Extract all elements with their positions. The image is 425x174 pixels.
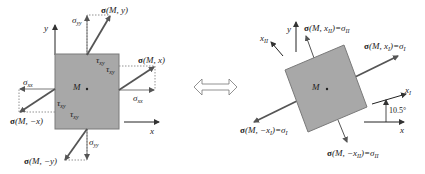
- sigma-m-neg-y-vector: [65, 129, 87, 160]
- x2-axis-arrow: [271, 42, 283, 56]
- sigma-m-neg-x-vector: [20, 89, 55, 112]
- x-axis-label: x: [149, 126, 154, 136]
- sigma-yy-bottom-label: σyy: [89, 137, 99, 148]
- sigma-m-xI-label: σ(M, xI)=σI: [364, 41, 406, 52]
- x1-axis-label: xI: [404, 85, 412, 96]
- sigma-m-neg-y-label: σ(M, −y): [24, 156, 57, 166]
- right-y-axis-label: y: [286, 24, 291, 34]
- stress-element-square: [55, 54, 119, 129]
- double-headed-arrow-icon: [194, 79, 237, 95]
- sigma-yy-top-label: σyy: [72, 15, 82, 26]
- sigma-m-neg-xI-label: σ(M, −xI)=σI: [240, 125, 288, 136]
- right-point-m-label: M: [311, 82, 320, 92]
- sigma-m-y-vector: [87, 16, 110, 55]
- right-x-axis-label: x: [399, 125, 404, 135]
- sigma-neg-xII-vector: [338, 120, 347, 142]
- x2-axis-label: xII: [259, 33, 269, 44]
- sigma-m-neg-xII-label: σ(M, −xII)=σII: [327, 148, 379, 159]
- point-m-dot: [86, 88, 88, 90]
- point-m-label: M: [72, 82, 81, 92]
- sigma-xI-vector: [355, 56, 398, 77]
- right-principal-element-group: y xII x xI 10.5° M σ(M, xII)=σII σ(M, xI…: [240, 22, 412, 159]
- sigma-xx-left-label: σxx: [23, 77, 33, 88]
- right-point-m-dot: [326, 88, 328, 90]
- sigma-m-x-vector: [119, 67, 154, 90]
- sigma-xx-right-label: σxx: [133, 93, 143, 104]
- sigma-neg-xI-vector: [254, 101, 297, 122]
- sigma-m-xII-label: σ(M, xII)=σII: [304, 23, 350, 34]
- stress-transformation-diagram: y x M σ(M, y) σyy σ(M, x) σxx σxx σ(M, −: [0, 0, 425, 174]
- angle-label: 10.5°: [389, 106, 406, 115]
- x1-axis-arrow: [372, 94, 406, 104]
- left-stress-element-group: y x M σ(M, y) σyy σ(M, x) σxx σxx σ(M, −: [10, 5, 165, 166]
- sigma-m-y-label: σ(M, y): [101, 5, 128, 15]
- y-axis-label: y: [43, 23, 48, 33]
- sigma-m-neg-x-label: σ(M, −x): [10, 116, 43, 126]
- sigma-m-x-label: σ(M, x): [138, 55, 165, 65]
- sigma-xII-vector: [306, 36, 314, 58]
